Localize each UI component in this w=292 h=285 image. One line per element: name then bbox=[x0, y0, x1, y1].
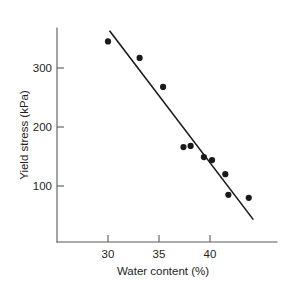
data-point bbox=[222, 171, 228, 177]
data-point bbox=[188, 143, 194, 149]
x-tick-label-35: 35 bbox=[153, 248, 166, 260]
trend-line bbox=[110, 31, 254, 220]
data-point bbox=[209, 157, 215, 163]
y-tick-label-100: 100 bbox=[33, 180, 52, 192]
y-axis-title: Yield stress (kPa) bbox=[18, 90, 30, 180]
y-tick-label-300: 300 bbox=[33, 62, 52, 74]
data-point bbox=[180, 144, 186, 150]
y-tick-label-200: 200 bbox=[33, 121, 52, 133]
x-axis-title: Water content (%) bbox=[117, 265, 209, 277]
y-axis-ticks bbox=[57, 68, 64, 186]
chart-figure: 300 200 100 30 35 40 Water content (%) Y… bbox=[0, 0, 292, 285]
x-tick-label-30: 30 bbox=[102, 248, 115, 260]
data-point bbox=[246, 195, 252, 201]
x-axis-ticks bbox=[108, 235, 210, 242]
data-point bbox=[201, 154, 207, 160]
data-point bbox=[105, 38, 111, 44]
scatter-plot: 300 200 100 30 35 40 Water content (%) Y… bbox=[0, 0, 292, 285]
x-tick-label-40: 40 bbox=[204, 248, 217, 260]
data-points-layer bbox=[105, 38, 252, 201]
data-point bbox=[160, 84, 166, 90]
data-point bbox=[137, 55, 143, 61]
data-point bbox=[225, 192, 231, 198]
trend-line-layer bbox=[110, 31, 254, 220]
